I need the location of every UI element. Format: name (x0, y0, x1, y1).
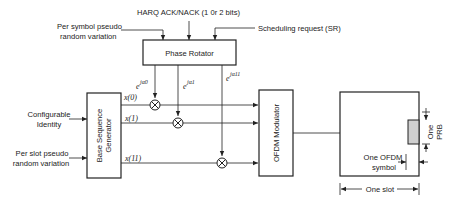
svg-text:PRB: PRB (435, 124, 444, 140)
svg-text:jα0: jα0 (139, 79, 148, 85)
phase-rotator-inputs (121, 21, 255, 40)
seq-label-0: x(0) (123, 93, 137, 102)
phase-label-1: e jα1 (183, 79, 195, 91)
per-symbol-label-1: Per symbol pseudo (57, 22, 122, 31)
diagram-canvas: HARQ ACK/NACK (1 0r 2 bits) Per symbol p… (0, 0, 454, 206)
phase-label-0: e jα0 (136, 79, 148, 91)
per-symbol-label-2: random variation (60, 32, 117, 41)
sequence-lines (121, 105, 258, 163)
svg-text:jα11: jα11 (229, 71, 240, 77)
seq-label-1: x(1) (124, 114, 138, 123)
harq-label: HARQ ACK/NACK (1 0r 2 bits) (137, 8, 240, 17)
prb-block (408, 120, 419, 144)
per-slot-label-2: random variation (13, 159, 70, 168)
sr-label: Scheduling request (SR) (258, 24, 341, 33)
config-identity-label-1: Configurable (27, 110, 70, 119)
ofdm-symbol-label-1: One OFDM (364, 153, 403, 162)
per-slot-label-1: Per slot pseudo (16, 149, 69, 158)
svg-text:One: One (426, 125, 435, 139)
prb-label: One PRB (426, 124, 444, 140)
multiplier-0 (150, 100, 160, 110)
slot-label: One slot (366, 185, 395, 194)
multiplier-11 (217, 158, 227, 168)
seq-label-11: x(11) (124, 154, 142, 163)
ofdm-symbol-label-2: symbol (372, 163, 396, 172)
multiplier-1 (173, 118, 183, 128)
phase-label-11: e jα11 (226, 71, 240, 83)
config-identity-label-2: Identity (37, 120, 62, 129)
phase-rotator-label: Phase Rotator (165, 49, 214, 58)
ofdm-modulator-label: OFDM Modulator (272, 103, 281, 162)
svg-text:jα1: jα1 (186, 79, 195, 85)
svg-text:Generator: Generator (104, 118, 113, 153)
base-seq-inputs (69, 119, 87, 158)
svg-text:Base Sequence: Base Sequence (95, 109, 104, 163)
